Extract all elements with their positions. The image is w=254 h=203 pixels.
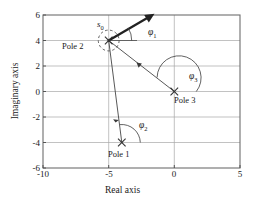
y-tick-4: 4 [26, 37, 40, 46]
pole-3-label: Pole 3 [174, 96, 196, 105]
x-tick-5: 5 [226, 170, 254, 179]
x-tick-m5: -5 [95, 170, 123, 179]
s0-label: s0 [97, 20, 104, 31]
grid-lines [43, 15, 240, 168]
x-tick-m10: -10 [29, 170, 57, 179]
phi-1-subscript: 1 [153, 32, 156, 39]
phi2-arc [120, 125, 140, 143]
s0-subscript: 0 [101, 24, 104, 31]
y-tick-2: 2 [26, 62, 40, 71]
y-axis-title: Imaginary axis [10, 63, 20, 120]
phi-3-subscript: 3 [194, 76, 197, 83]
x-axis-title: Real axis [105, 186, 140, 196]
y-axis-title-wrapper: Imaginary axis [4, 59, 22, 123]
phi-2-label: φ2 [139, 121, 148, 132]
phi-3-label: φ3 [189, 72, 198, 83]
phi-2-subscript: 2 [144, 125, 147, 132]
x-tick-0: 0 [160, 170, 188, 179]
y-tick-6: 6 [26, 11, 40, 20]
phi-1-label: φ1 [148, 28, 157, 39]
y-tick-0: 0 [26, 88, 40, 97]
y-tick-m2: -2 [22, 113, 40, 122]
pole-1-label: Pole 1 [108, 150, 130, 159]
y-tick-m4: -4 [22, 139, 40, 148]
pole1-vector-arrowhead [113, 119, 119, 122]
pole-2-label: Pole 2 [62, 42, 84, 51]
